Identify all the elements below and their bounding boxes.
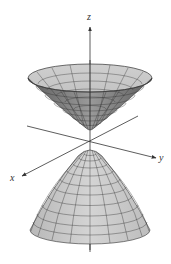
hyperboloid-diagram: z x y xyxy=(0,0,171,264)
y-axis-label: y xyxy=(158,152,164,163)
z-axis-label: z xyxy=(86,11,91,22)
x-axis-label: x xyxy=(9,172,15,183)
lower-sheet xyxy=(30,150,150,244)
